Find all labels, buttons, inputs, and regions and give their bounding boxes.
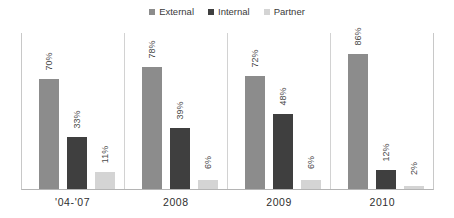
bar-slot-partner: 2%	[404, 33, 424, 189]
legend-swatch-partner	[264, 9, 270, 15]
bar-slot-external: 72%	[245, 33, 265, 189]
bar-slot-partner: 11%	[95, 33, 115, 189]
bar-internal	[273, 114, 293, 189]
bar-group: 86%12%2%	[331, 33, 433, 189]
legend-label-internal: Internal	[218, 7, 250, 17]
bar-partner	[404, 186, 424, 189]
bar-slot-partner: 6%	[198, 33, 218, 189]
bar-value-label: 78%	[148, 40, 157, 58]
bar-slot-internal: 39%	[170, 33, 190, 189]
bar-value-label: 39%	[176, 101, 185, 119]
x-axis-tick-label: 2010	[331, 193, 434, 213]
x-axis-tick-label: '04-'07	[21, 193, 124, 213]
legend-item-external: External	[149, 7, 194, 17]
x-axis-tick-label: 2008	[124, 193, 227, 213]
bar-group: 72%48%6%	[228, 33, 331, 189]
grouped-bar-chart: External Internal Partner 70%33%11%78%39…	[0, 0, 454, 218]
plot-area: 70%33%11%78%39%6%72%48%6%86%12%2%	[21, 33, 434, 190]
bar-internal	[67, 137, 87, 189]
bar-slot-internal: 33%	[67, 33, 87, 189]
bar-internal	[376, 170, 396, 189]
x-axis-tick-label: 2009	[228, 193, 331, 213]
bar-value-label: 72%	[251, 49, 260, 67]
bar-value-label: 70%	[45, 53, 54, 71]
bar-slot-external: 86%	[348, 33, 368, 189]
bar-value-label: 2%	[410, 162, 419, 175]
bar-external	[245, 76, 265, 189]
bar-partner	[301, 180, 321, 189]
bar-slot-external: 70%	[39, 33, 59, 189]
bar-value-label: 48%	[279, 87, 288, 105]
bar-group: 78%39%6%	[125, 33, 228, 189]
x-axis-labels: '04-'07200820092010	[21, 193, 434, 213]
bar-slot-internal: 12%	[376, 33, 396, 189]
bar-external	[142, 67, 162, 189]
bar-value-label: 86%	[354, 27, 363, 45]
bar-slot-external: 78%	[142, 33, 162, 189]
bar-slot-partner: 6%	[301, 33, 321, 189]
legend-swatch-external	[149, 9, 155, 15]
bar-value-label: 11%	[101, 146, 110, 163]
chart-legend: External Internal Partner	[0, 7, 454, 17]
legend-label-partner: Partner	[274, 7, 305, 17]
bar-value-label: 6%	[204, 156, 213, 169]
legend-item-partner: Partner	[264, 7, 305, 17]
bar-value-label: 6%	[307, 156, 316, 169]
bar-value-label: 33%	[73, 111, 82, 129]
bar-partner	[95, 172, 115, 189]
bar-external	[348, 54, 368, 189]
legend-swatch-internal	[208, 9, 214, 15]
bar-slot-internal: 48%	[273, 33, 293, 189]
bar-internal	[170, 128, 190, 189]
bar-value-label: 12%	[382, 144, 391, 162]
legend-label-external: External	[159, 7, 194, 17]
bar-partner	[198, 180, 218, 189]
bar-group: 70%33%11%	[22, 33, 125, 189]
bar-external	[39, 79, 59, 189]
legend-item-internal: Internal	[208, 7, 250, 17]
